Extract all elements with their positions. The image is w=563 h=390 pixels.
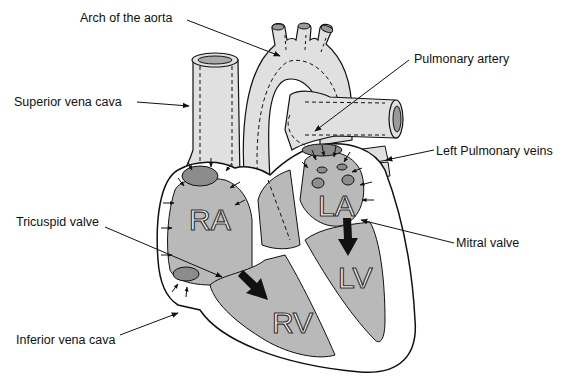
label-inferior-vena-cava: Inferior vena cava bbox=[16, 334, 115, 347]
label-tricuspid-valve: Tricuspid valve bbox=[16, 216, 99, 229]
chamber-label-la: LA bbox=[318, 191, 355, 221]
superior-vena-cava-vessel bbox=[180, 53, 240, 180]
label-superior-vena-cava: Superior vena cava bbox=[14, 96, 122, 109]
chamber-label-lv: LV bbox=[338, 263, 372, 293]
label-pulmonary-artery: Pulmonary artery bbox=[414, 53, 509, 66]
heart-diagram: Arch of the aorta Superior vena cava Pul… bbox=[0, 0, 563, 390]
chamber-label-ra: RA bbox=[189, 205, 231, 235]
label-arch-of-aorta: Arch of the aorta bbox=[80, 12, 172, 25]
chamber-label-rv: RV bbox=[272, 308, 313, 338]
label-left-pulmonary-veins: Left Pulmonary veins bbox=[436, 145, 553, 158]
label-mitral-valve: Mitral valve bbox=[456, 237, 519, 250]
